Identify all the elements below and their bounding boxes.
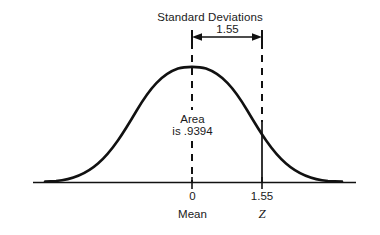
- area-annotation: Areais .9394: [0, 113, 380, 138]
- span-measurement-label: 1.55: [0, 23, 380, 35]
- z-tick-name-label: Z: [0, 207, 380, 221]
- area-annotation-line1: Area: [180, 113, 204, 125]
- chart-title: Standard Deviations: [0, 11, 380, 23]
- z-tick-value-label: 1.55: [0, 190, 380, 202]
- area-annotation-line2: is .9394: [0, 125, 380, 137]
- normal-distribution-figure: Standard Deviations 1.55 Areais .9394 0 …: [0, 0, 380, 235]
